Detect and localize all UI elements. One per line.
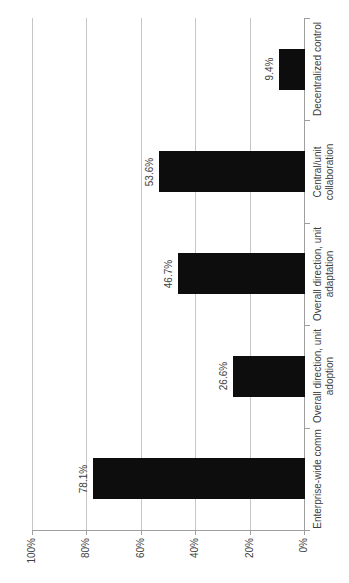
value-axis-label: 20% (244, 538, 256, 583)
category-label-line: collaboration (324, 72, 336, 272)
bar-overall-direction-unit-adaptation (178, 253, 305, 294)
bar-enterprise-wide-comm (93, 458, 305, 499)
category-axis-tick (304, 120, 310, 121)
value-axis-label: 60% (135, 538, 147, 583)
category-label-decentralized-control: Decentralized control (312, 0, 324, 169)
category-axis-tick (304, 223, 310, 224)
value-axis-label: 0% (298, 538, 310, 583)
category-axis-tick (304, 325, 310, 326)
value-gridline (141, 18, 142, 530)
value-axis-label: 100% (26, 538, 38, 583)
data-label-decentralized-control: 9.4% (264, 29, 276, 109)
bar-chart: 0%20%40%60%80%100%78.1%Enterprise-wide c… (0, 0, 349, 583)
data-label-central-unit-collaboration: 53.6% (144, 132, 156, 212)
category-axis-tick (304, 428, 310, 429)
category-axis-tick (304, 18, 310, 19)
value-axis-label: 80% (80, 538, 92, 583)
value-axis-label: 40% (189, 538, 201, 583)
bar-central-unit-collaboration (159, 151, 305, 192)
category-label-line: Decentralized control (312, 0, 324, 169)
category-axis-tick (304, 530, 310, 531)
bar-decentralized-control (279, 49, 305, 90)
chart-screenshot-root: 0%20%40%60%80%100%78.1%Enterprise-wide c… (0, 0, 349, 583)
bar-overall-direction-unit-adoption (233, 356, 305, 397)
data-label-overall-direction-unit-adaptation: 46.7% (163, 234, 175, 314)
data-label-enterprise-wide-comm: 78.1% (78, 439, 90, 519)
value-axis-line (33, 530, 305, 531)
data-label-overall-direction-unit-adoption: 26.6% (218, 336, 230, 416)
value-gridline (32, 18, 33, 530)
